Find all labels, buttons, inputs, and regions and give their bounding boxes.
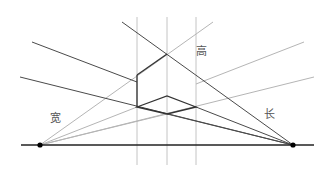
label-height: 高 — [196, 46, 207, 57]
ray-left-2-ext — [196, 42, 304, 84]
label-width: 宽 — [50, 113, 61, 124]
ray-right-5 — [196, 107, 293, 145]
right-vanishing-point — [290, 142, 295, 147]
ray-right-2 — [32, 42, 137, 82]
right-vp-rays — [20, 22, 293, 145]
cube-top-left-edge — [137, 54, 167, 75]
label-length: 长 — [264, 109, 275, 120]
ray-right-1 — [122, 22, 293, 145]
perspective-diagram — [0, 0, 335, 177]
left-vp-rays — [40, 22, 314, 145]
ray-left-1 — [40, 22, 213, 145]
left-vanishing-point — [37, 142, 42, 147]
